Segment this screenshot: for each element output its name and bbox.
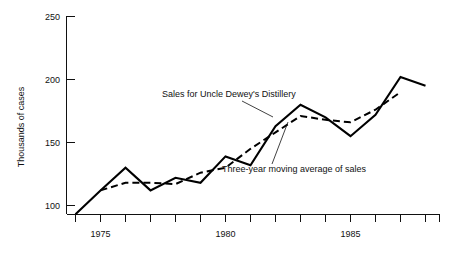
y-tick-label: 200 xyxy=(45,75,60,85)
series-moving-average-line xyxy=(101,92,401,190)
x-tick-label-1975: 1975 xyxy=(90,229,110,239)
annotation-moving-average-label: Three-year moving average of sales xyxy=(222,164,367,174)
line-chart: 250 200 150 100 Thousands of cases xyxy=(0,0,451,253)
y-tick-label: 100 xyxy=(45,201,60,211)
x-tick-label-1980: 1980 xyxy=(215,229,235,239)
y-axis-ticks xyxy=(67,17,76,206)
y-tick-label: 150 xyxy=(45,138,60,148)
y-tick-label: 250 xyxy=(45,12,60,22)
x-tick-label-1985: 1985 xyxy=(340,229,360,239)
x-axis-tick-labels: 1975 1980 1985 xyxy=(90,229,360,239)
x-axis-ticks xyxy=(76,215,440,223)
annotation-sales-leader xyxy=(242,101,273,117)
y-axis-title: Thousands of cases xyxy=(16,86,26,167)
annotation-sales-label: Sales for Uncle Dewey's Distillery xyxy=(162,89,296,99)
chart-page: 250 200 150 100 Thousands of cases xyxy=(0,0,451,253)
y-axis-tick-labels: 250 200 150 100 xyxy=(45,12,60,211)
